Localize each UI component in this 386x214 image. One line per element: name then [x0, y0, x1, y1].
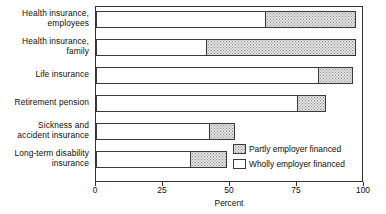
category-label: Sickness andaccident insurance: [0, 121, 89, 140]
category-axis-labels: Health insurance,employeesHealth insuran…: [0, 6, 92, 182]
bar-segment-wholly-employer-financed: [96, 95, 297, 112]
bar-segment-partly-employer-financed: [209, 123, 236, 140]
stacked-bar: [96, 151, 227, 168]
x-axis-tick-labels: 0255075100: [0, 185, 386, 197]
legend-item: Partly employer financed: [233, 142, 361, 156]
x-axis-tick-label: 0: [93, 185, 98, 195]
stacked-bar: [96, 67, 353, 84]
bar-row: [96, 95, 364, 112]
x-axis-title: Percent: [95, 198, 363, 208]
bar-row: [96, 67, 364, 84]
stacked-bar: [96, 39, 356, 56]
legend-swatch-wholly-icon: [233, 159, 246, 169]
category-label: Long-term disabilityinsurance: [0, 149, 89, 168]
legend-label: Partly employer financed: [249, 144, 341, 154]
bar-row: [96, 123, 364, 140]
stacked-bar: [96, 123, 235, 140]
bar-chart: Health insurance,employeesHealth insuran…: [0, 0, 386, 214]
category-label-line: Life insurance: [0, 70, 89, 80]
bar-segment-wholly-employer-financed: [96, 11, 265, 28]
category-label-line: insurance: [0, 159, 89, 169]
bar-segment-wholly-employer-financed: [96, 123, 209, 140]
category-label: Health insurance,employees: [0, 9, 89, 28]
x-axis-tick-label: 50: [224, 185, 233, 195]
bar-segment-partly-employer-financed: [265, 11, 356, 28]
x-axis-tick-label: 100: [356, 185, 370, 195]
legend-swatch-partly-icon: [233, 144, 246, 154]
category-label: Health insurance,family: [0, 37, 89, 56]
category-label-line: employees: [0, 19, 89, 29]
legend-label: Wholly employer financed: [249, 159, 345, 169]
bar-segment-partly-employer-financed: [190, 151, 228, 168]
category-label: Retirement pension: [0, 98, 89, 108]
bar-segment-partly-employer-financed: [206, 39, 356, 56]
bar-segment-wholly-employer-financed: [96, 67, 318, 84]
category-label: Life insurance: [0, 70, 89, 80]
category-label-line: family: [0, 47, 89, 57]
bar-segment-partly-employer-financed: [318, 67, 353, 84]
stacked-bar: [96, 95, 326, 112]
category-label-line: Retirement pension: [0, 98, 89, 108]
bar-segment-wholly-employer-financed: [96, 151, 190, 168]
bar-row: [96, 39, 364, 56]
bar-segment-partly-employer-financed: [297, 95, 326, 112]
category-label-line: accident insurance: [0, 131, 89, 141]
chart-legend: Partly employer financedWholly employer …: [233, 142, 361, 172]
bar-row: [96, 11, 364, 28]
x-axis-tick-label: 75: [291, 185, 300, 195]
x-axis-tick-label: 25: [157, 185, 166, 195]
bar-segment-wholly-employer-financed: [96, 39, 206, 56]
legend-item: Wholly employer financed: [233, 157, 361, 171]
stacked-bar: [96, 11, 356, 28]
